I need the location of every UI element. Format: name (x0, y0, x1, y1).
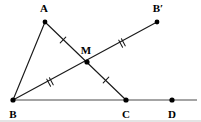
label-D: D (168, 109, 176, 120)
geometry-figure: A B M B′ C D (0, 0, 201, 122)
segment-AB (13, 22, 45, 100)
vertex-dot-M (84, 59, 89, 64)
vertex-dot-A (43, 20, 48, 25)
vertex-dot-D (169, 97, 174, 102)
vertex-dot-C (123, 97, 128, 102)
label-Bprime: B′ (153, 3, 163, 14)
label-B: B (9, 109, 16, 120)
label-C: C (122, 109, 130, 120)
figure-canvas (0, 0, 201, 122)
vertex-dot-Bprime (155, 20, 160, 25)
vertex-dot-B (10, 97, 15, 102)
label-M: M (81, 45, 91, 56)
label-A: A (40, 3, 48, 14)
